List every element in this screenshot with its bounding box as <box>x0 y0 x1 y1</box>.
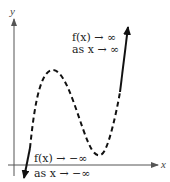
x-axis-label: x <box>161 159 166 170</box>
annotation-left-line2: as x → −∞ <box>34 168 91 179</box>
annotation-left-line1: f(x) → −∞ <box>34 153 87 164</box>
curve-right-tail-arrow <box>120 27 128 92</box>
annotation-right-line1: f(x) → ∞ <box>72 32 116 43</box>
curve-left-tail-arrow <box>24 148 30 178</box>
y-axis-label: y <box>10 6 15 17</box>
end-behavior-diagram: y x f(x) → ∞ as x → ∞ f(x) → −∞ as x → −… <box>0 0 170 182</box>
curve-dashed-middle <box>30 70 120 155</box>
annotation-right-line2: as x → ∞ <box>72 44 119 55</box>
